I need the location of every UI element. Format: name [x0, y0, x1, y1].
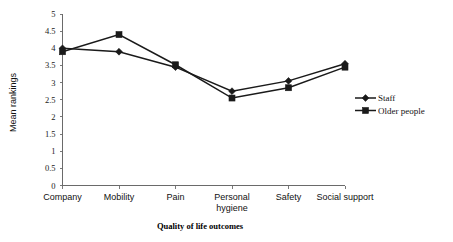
line-chart: 00.511.522.533.544.55 CompanyMobilityPai…: [0, 0, 453, 242]
legend-square-icon: [363, 108, 369, 114]
data-point-square: [60, 49, 66, 55]
data-point-square: [173, 62, 179, 68]
x-axis-category-labels: CompanyMobilityPainPersonalhygieneSafety…: [43, 192, 374, 213]
x-category-label: Pain: [166, 192, 184, 202]
y-tick-label: 1: [51, 146, 55, 156]
y-tick-label: 2.5: [45, 95, 56, 105]
y-tick-label: 3.5: [45, 60, 56, 70]
x-axis-title: Quality of life outcomes: [157, 221, 244, 231]
y-tick-label: 4.5: [45, 26, 56, 36]
legend-item-older-people: Older people: [355, 106, 425, 116]
x-axis: CompanyMobilityPainPersonalhygieneSafety…: [43, 186, 374, 213]
x-category-label: Personalhygiene: [214, 192, 250, 213]
y-tick-label: 4: [51, 43, 56, 53]
data-point-diamond: [285, 77, 292, 84]
data-point-diamond: [229, 88, 236, 95]
series-line: [63, 48, 346, 91]
y-tick-label: 1.5: [45, 129, 56, 139]
series-older-people: [60, 32, 349, 101]
x-category-label: Mobility: [104, 192, 135, 202]
data-point-square: [286, 85, 292, 91]
series-line: [63, 35, 346, 98]
y-tick-label: 0: [51, 181, 55, 191]
data-point-diamond: [116, 48, 123, 55]
y-tick-label: 3: [51, 78, 55, 88]
y-tick-label: 5: [51, 9, 55, 19]
y-axis: 00.511.522.533.544.55: [45, 9, 63, 191]
y-tick-label: 0.5: [45, 163, 56, 173]
x-category-label: Company: [43, 192, 82, 202]
series-staff: [59, 45, 348, 95]
chart-legend: StaffOlder people: [355, 93, 425, 116]
y-axis-title: Mean rankings: [8, 72, 18, 132]
data-point-square: [116, 32, 122, 38]
y-tick-label: 2: [51, 112, 55, 122]
x-category-label: Social support: [316, 192, 374, 202]
legend-item-staff: Staff: [355, 93, 395, 103]
legend-label: Staff: [378, 93, 395, 103]
chart-container: 00.511.522.533.544.55 CompanyMobilityPai…: [0, 0, 453, 242]
legend-label: Older people: [378, 106, 425, 116]
data-point-square: [342, 64, 348, 70]
x-category-label: Safety: [276, 192, 302, 202]
legend-diamond-icon: [362, 95, 369, 102]
data-series-layer: [59, 32, 348, 101]
y-axis-tick-labels: 00.511.522.533.544.55: [45, 9, 56, 191]
data-point-square: [229, 95, 235, 101]
